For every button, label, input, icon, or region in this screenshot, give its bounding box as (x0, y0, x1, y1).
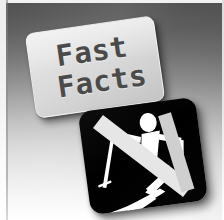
fast-facts-graphic: Fast Facts (0, 0, 224, 220)
skier-left-arm-shape (117, 129, 142, 146)
skier-right-arm-shape (157, 131, 182, 147)
downhill-skier-icon (78, 97, 209, 216)
skier-icon-tile (78, 97, 209, 216)
skier-left-pole-shaft (96, 132, 123, 189)
right-edge-line (222, 0, 224, 220)
skier-head-shape (139, 112, 158, 133)
top-edge-line (0, 0, 224, 3)
left-vertical-rule (6, 0, 8, 220)
